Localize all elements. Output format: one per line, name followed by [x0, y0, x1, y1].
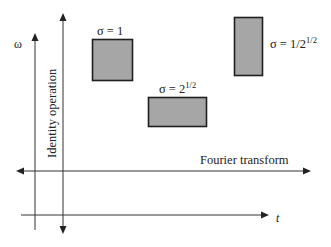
- t-axis-label: t: [276, 211, 280, 225]
- tile-sigma-1-rect: [93, 40, 133, 81]
- tile-sigma-1-label: σ = 1: [97, 24, 123, 38]
- fourier-arrow-left-head-icon: [16, 168, 24, 175]
- tile-sigma-inv-sqrt2-label: σ = 1/21/2: [270, 35, 317, 51]
- fourier-arrow-right-head-icon: [303, 168, 311, 175]
- tile-sigma-inv-sqrt2: σ = 1/21/2: [235, 18, 317, 76]
- tile-sigma-inv-sqrt2-label-sup: 1/2: [306, 35, 317, 45]
- t-axis-arrowhead-icon: [261, 212, 269, 219]
- fourier-transform-arrow: Fourier transform: [16, 153, 311, 175]
- t-axis: t: [21, 211, 280, 225]
- tile-sigma-inv-sqrt2-rect: [235, 18, 263, 76]
- tile-sigma-sqrt2-label-main: σ = 2: [159, 82, 185, 96]
- tile-sigma-sqrt2: σ = 21/2: [149, 80, 207, 127]
- omega-axis: ω: [14, 33, 39, 230]
- tile-sigma-inv-sqrt2-label-main: σ = 1/2: [270, 37, 306, 51]
- identity-operation-label: Identity operation: [45, 68, 59, 158]
- omega-axis-arrowhead-icon: [32, 33, 39, 41]
- omega-axis-label: ω: [14, 37, 22, 51]
- tile-sigma-1-label-main: σ = 1: [97, 24, 123, 38]
- tile-sigma-sqrt2-label: σ = 21/2: [159, 80, 196, 96]
- tile-sigma-1: σ = 1: [93, 24, 133, 81]
- tile-sigma-sqrt2-label-sup: 1/2: [185, 80, 196, 90]
- identity-arrow-down-head-icon: [60, 226, 67, 234]
- tile-sigma-sqrt2-rect: [149, 98, 207, 127]
- time-frequency-diagram: ω Identity operation Fourier transform t…: [0, 0, 331, 247]
- fourier-transform-label: Fourier transform: [200, 153, 289, 167]
- identity-operation-arrow: Identity operation: [45, 13, 67, 234]
- identity-arrow-up-head-icon: [60, 13, 67, 21]
